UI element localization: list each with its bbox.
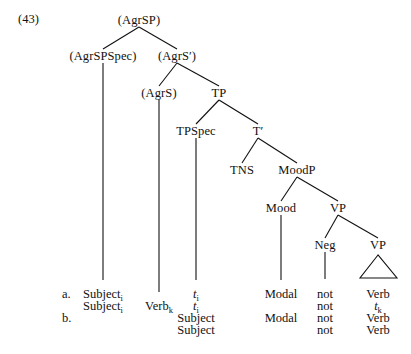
branch-moodp-to-vp_upper [297, 177, 338, 201]
terminal-subject-row2: Subjecti [83, 300, 123, 313]
branch-agrsbar-to-tp [177, 63, 219, 86]
tree-node-tpspec: TPSpec [176, 125, 216, 138]
branch-agrsp-to-agrsbar [139, 27, 177, 49]
terminal-neg-row4: not [317, 324, 333, 337]
branch-tp-to-tbar [219, 100, 258, 124]
tree-node-vp_upper: VP [330, 202, 346, 215]
tree-node-moodp: MoodP [278, 164, 315, 177]
terminal-text: Verb [145, 299, 169, 313]
terminal-text: Verb [366, 287, 390, 301]
vp-triangle [360, 255, 397, 278]
terminal-text: Modal [265, 287, 298, 301]
terminal-subscript: k [169, 305, 173, 315]
tree-node-agrspspec: (AgrSPSpec) [69, 50, 136, 63]
branch-agrsbar-to-agrs [159, 63, 177, 86]
row-marker-a: a. [62, 288, 71, 301]
terminal-trace-row4: Subject [177, 324, 215, 337]
terminal-subscript: i [121, 305, 123, 315]
branch-moodp-to-mood [281, 177, 297, 201]
terminal-verb_right-row4: Verb [366, 324, 390, 337]
terminal-modal-row1: Modal [265, 288, 298, 301]
terminal-verb_right-row1: Verb [366, 288, 390, 301]
tree-node-agrs: (AgrS) [141, 87, 176, 100]
terminal-text: Subject [177, 323, 215, 337]
figure-canvas: (43) (AgrSP)(AgrSPSpec)(AgrS′)(AgrS)TPTP… [0, 0, 411, 354]
tree-node-tbar: T′ [253, 125, 264, 138]
terminal-text: not [317, 323, 333, 337]
terminal-text: Modal [265, 311, 298, 325]
branch-tbar-to-tns [242, 138, 258, 163]
terminal-text: Verb [366, 323, 390, 337]
branch-agrsp-to-agrspspec [103, 27, 139, 49]
row-marker-b: b. [62, 312, 71, 325]
branch-tp-to-tpspec [196, 100, 219, 124]
branch-tbar-to-moodp [258, 138, 297, 163]
tree-node-agrsbar: (AgrS′) [158, 50, 196, 63]
terminal-verb-row2: Verbk [145, 300, 173, 313]
branch-vp_upper-to-vp_lower [338, 215, 378, 238]
tree-node-vp_lower: VP [370, 239, 386, 252]
tree-node-mood: Mood [266, 202, 296, 215]
tree-node-agrsp: (AgrSP) [118, 14, 160, 27]
tree-node-tp: TP [212, 87, 227, 100]
terminal-text: Subject [83, 299, 121, 313]
branch-vp_upper-to-neg [325, 215, 338, 238]
tree-node-neg: Neg [314, 239, 335, 252]
tree-node-tns: TNS [230, 164, 254, 177]
terminal-modal-row3: Modal [265, 312, 298, 325]
